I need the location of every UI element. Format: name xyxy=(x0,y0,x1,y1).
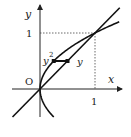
x-axis-label: x xyxy=(108,73,115,86)
tick-x1-label: 1 xyxy=(91,96,97,107)
diagram: y x O 1 1 y 2 y xyxy=(0,0,131,137)
origin-label: O xyxy=(25,76,33,87)
tick-y1-label: 1 xyxy=(26,28,32,39)
strip-left-label: y xyxy=(42,55,49,66)
strip-endpoint-right xyxy=(66,59,70,63)
parabola-x-equals-y-squared xyxy=(40,22,119,117)
y-axis-label: y xyxy=(24,8,32,21)
strip-endpoint-left xyxy=(52,59,56,63)
strip-right-label: y xyxy=(76,56,83,67)
strip-left-exponent: 2 xyxy=(49,51,53,59)
